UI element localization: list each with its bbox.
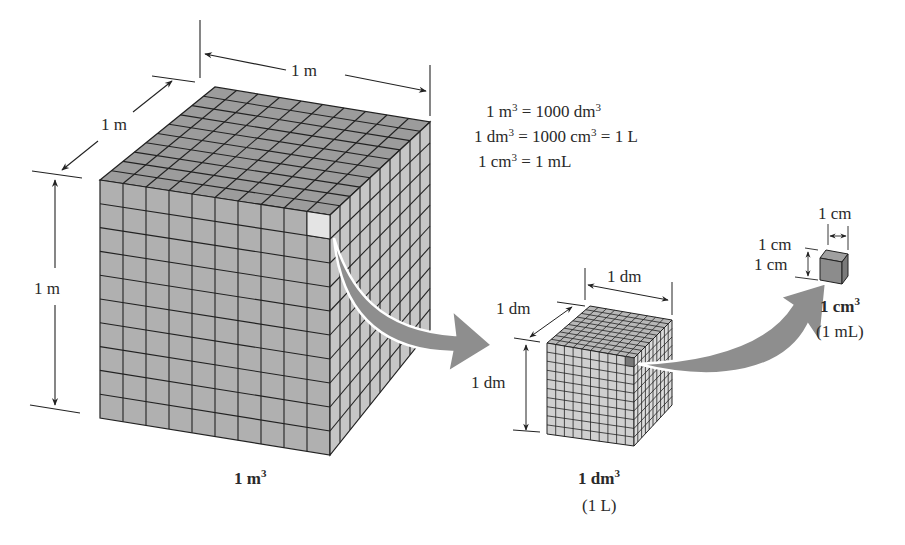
caption-milliliter: (1 mL) [816, 323, 864, 340]
eq-lhs: 1 dm [474, 127, 508, 146]
width-label-dm: 1 dm [607, 268, 641, 285]
caption-main: 1 dm [578, 469, 614, 488]
height-label-dm: 1 dm [471, 374, 505, 391]
depth-label-dm: 1 dm [496, 300, 530, 317]
eq-exp: 3 [508, 126, 514, 138]
eq-exp: 3 [512, 151, 518, 163]
eq-exp: 3 [596, 101, 602, 113]
equation-cm3-ml: 1 cm3 = 1 mL [478, 146, 571, 173]
caption-dm3: 1 dm3 [578, 468, 620, 487]
caption-main: 1 cm [820, 297, 854, 316]
equation-dm3-cm3-l: 1 dm3 = 1000 cm3 = 1 L [474, 121, 638, 148]
eq-rhs: = 1000 dm [522, 102, 596, 121]
eq-lhs: 1 cm [478, 152, 512, 171]
eq-rhs: = 1000 cm [518, 127, 591, 146]
caption-liter: (1 L) [582, 497, 616, 514]
height-label-m: 1 m [34, 280, 60, 297]
caption-cm3: 1 cm3 [820, 296, 860, 315]
depth-label-cm: 1 cm [758, 236, 792, 253]
cubic-centimeter-cube [820, 250, 848, 284]
equation-m3-dm3: 1 m3 = 1000 dm3 [486, 96, 601, 123]
caption-exp: 3 [854, 295, 860, 307]
height-label-cm: 1 cm [754, 256, 788, 273]
depth-label-m: 1 m [101, 116, 127, 133]
caption-main: 1 m [234, 469, 261, 488]
eq-rhs: = 1 mL [521, 152, 571, 171]
caption-exp: 3 [261, 467, 267, 479]
caption-m3: 1 m3 [234, 468, 266, 487]
width-label-cm: 1 cm [818, 205, 852, 222]
eq-tail: = 1 L [597, 127, 638, 146]
eq-exp: 3 [512, 101, 518, 113]
cubic-decimeter-cube [547, 306, 672, 446]
cube-front-face [820, 258, 842, 284]
eq-lhs: 1 m [486, 102, 512, 121]
highlighted-unit-cube [307, 212, 330, 240]
width-label-m: 1 m [291, 62, 317, 79]
highlighted-unit-cube [625, 357, 634, 367]
caption-exp: 3 [614, 467, 620, 479]
cubic-meter-cube [100, 87, 430, 455]
